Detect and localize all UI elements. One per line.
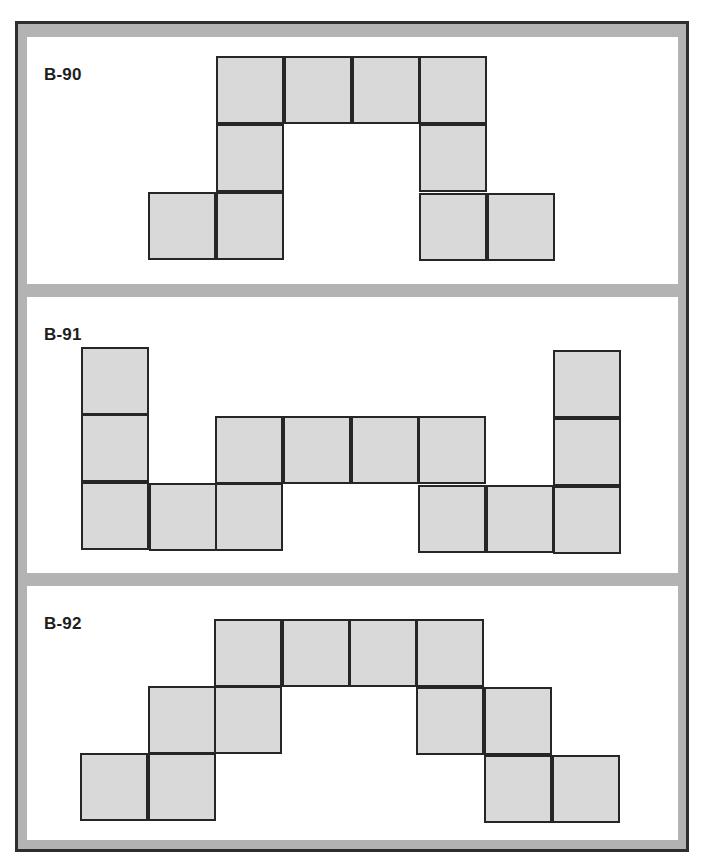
grid-square (81, 347, 149, 415)
grid-square (215, 483, 283, 551)
grid-square (352, 56, 420, 124)
grid-square (216, 56, 284, 124)
grid-square (416, 619, 484, 687)
grid-square (486, 485, 554, 553)
grid-square (215, 416, 283, 484)
grid-square (484, 755, 552, 823)
grid-square (484, 687, 552, 755)
grid-square (487, 193, 555, 261)
grid-square (419, 124, 487, 192)
grid-square (81, 482, 149, 550)
grid-square (553, 418, 621, 486)
grid-square (284, 56, 352, 124)
grid-square (553, 350, 621, 418)
grid-square (80, 753, 148, 821)
grid-square (351, 416, 419, 484)
panel-label: B-91 (44, 325, 82, 345)
panel-label: B-92 (44, 614, 82, 634)
grid-square (214, 619, 282, 687)
grid-square (416, 687, 484, 755)
grid-square (148, 753, 216, 821)
grid-square (282, 619, 350, 687)
grid-square (418, 416, 486, 484)
grid-square (553, 486, 621, 554)
grid-square (418, 485, 486, 553)
grid-square (349, 619, 417, 687)
grid-square (419, 193, 487, 261)
grid-square (214, 686, 282, 754)
grid-square (216, 124, 284, 192)
panel-label: B-90 (44, 65, 82, 85)
grid-square (419, 56, 487, 124)
grid-square (149, 483, 217, 551)
grid-square (81, 414, 149, 482)
grid-square (216, 192, 284, 260)
grid-square (552, 755, 620, 823)
grid-square (148, 192, 216, 260)
grid-square (148, 686, 216, 754)
grid-square (283, 416, 351, 484)
